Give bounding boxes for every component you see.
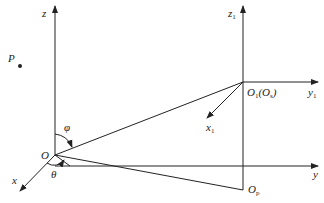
label-op: Op <box>248 183 260 197</box>
x1-axis <box>207 82 243 118</box>
label-o: O <box>41 149 49 161</box>
label-y1: y1 <box>307 86 317 100</box>
label-z1: z1 <box>227 7 236 21</box>
label-x: x <box>11 174 17 186</box>
o-to-o1-line <box>55 82 243 155</box>
point-p <box>18 64 22 68</box>
label-theta: θ <box>51 168 57 180</box>
label-p: P <box>7 52 15 64</box>
label-y: y <box>312 168 318 180</box>
label-x1: x1 <box>205 121 215 135</box>
label-o1: O1(Os) <box>247 86 277 100</box>
o-to-op-line <box>55 155 243 190</box>
label-z: z <box>41 7 47 19</box>
label-phi: φ <box>64 121 70 133</box>
phi-arc <box>55 134 72 147</box>
coordinate-diagram: z P φ O x θ z1 O1(Os) y1 x1 y Op <box>0 0 324 203</box>
x-axis <box>20 155 55 191</box>
